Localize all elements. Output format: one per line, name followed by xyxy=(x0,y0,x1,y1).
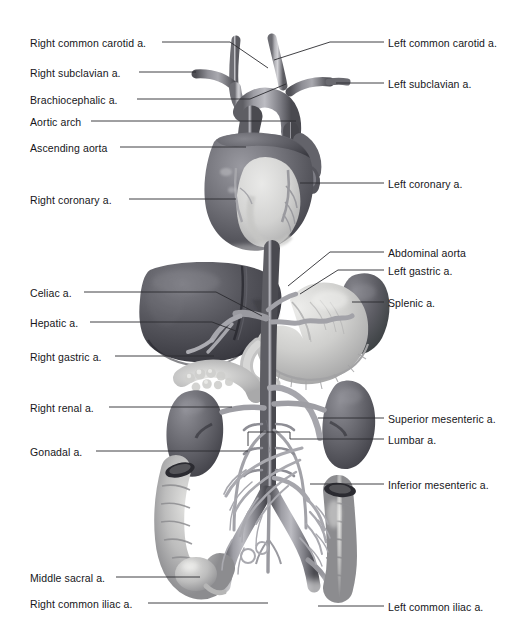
label-middle-sacral: Middle sacral a. xyxy=(30,572,105,584)
label-inferior-mesenteric: Inferior mesenteric a. xyxy=(388,479,489,491)
anatomy-figure: Right common carotid a.Right subclavian … xyxy=(0,0,520,643)
label-right-coronary: Right coronary a. xyxy=(30,194,112,206)
label-aortic-arch: Aortic arch xyxy=(30,116,81,128)
pancreas-structure xyxy=(182,368,256,394)
label-left-coronary: Left coronary a. xyxy=(388,178,463,190)
label-brachiocephalic: Brachiocephalic a. xyxy=(30,94,118,106)
label-left-common-iliac: Left common iliac a. xyxy=(388,601,483,613)
label-abdominal-aorta: Abdominal aorta xyxy=(388,247,466,259)
label-lumbar: Lumbar a. xyxy=(388,434,436,446)
ascending-colon-structure xyxy=(161,460,224,593)
label-left-subclavian: Left subclavian a. xyxy=(388,78,472,90)
heart-structure xyxy=(204,133,313,260)
label-gonadal: Gonadal a. xyxy=(30,446,82,458)
label-hepatic: Hepatic a. xyxy=(30,317,78,329)
label-ascending-aorta: Ascending aorta xyxy=(30,142,107,154)
label-splenic: Splenic a. xyxy=(388,297,435,309)
label-left-common-carotid: Left common carotid a. xyxy=(388,37,497,49)
label-left-gastric: Left gastric a. xyxy=(388,265,453,277)
label-right-subclavian: Right subclavian a. xyxy=(30,67,121,79)
label-right-common-carotid: Right common carotid a. xyxy=(30,37,146,49)
label-right-common-iliac: Right common iliac a. xyxy=(30,598,132,610)
label-superior-mesenteric: Superior mesenteric a. xyxy=(388,413,496,425)
label-right-gastric: Right gastric a. xyxy=(30,351,102,363)
label-right-renal: Right renal a. xyxy=(30,402,94,414)
label-celiac: Celiac a. xyxy=(30,287,72,299)
